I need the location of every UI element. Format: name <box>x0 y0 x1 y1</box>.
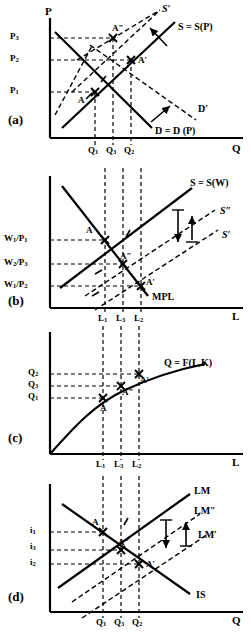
panel-d-ytick-1: i3 <box>30 542 36 552</box>
panel-d-xtick-2: Q2 <box>132 618 142 628</box>
panel-c-point-A2: A″ <box>122 388 133 397</box>
panel-b-point-A2: A″ <box>120 252 131 261</box>
panel-c-point-A1: A′ <box>140 376 149 385</box>
panel-a: P Q P3 P2 P1 Q1 Q3 Q2 S = S(P) S′ D = D … <box>0 0 251 160</box>
tickmark-s1 <box>92 292 99 296</box>
panel-b-curve-label-S1: S′ <box>222 230 230 240</box>
panel-a-curve-label-supply-prime: S′ <box>162 4 170 14</box>
panel-c-ytick-2: Q1 <box>28 392 38 402</box>
arrow-demand-shift <box>151 106 170 122</box>
panel-b-plot <box>0 168 251 323</box>
panel-b-curve-label-MPL: MPL <box>152 292 174 302</box>
panel-a-plot <box>0 0 251 160</box>
curve-IS <box>62 504 190 594</box>
panel-d-curve-label-LM1: LM′ <box>198 530 217 540</box>
panel-d-point-A: A <box>92 518 99 527</box>
panel-a-ytick-0: P3 <box>10 32 19 42</box>
panel-a-ytick-2: P1 <box>10 86 19 96</box>
panel-b-ytick-0: W1/P1 <box>4 234 28 244</box>
panel-b-xtick-0: L1 <box>98 314 107 324</box>
panel-a-curve-label-supply: S = S(P) <box>178 22 213 32</box>
panel-d-xtick-1: Q3 <box>114 618 124 628</box>
panel-b-ytick-2: W1/P2 <box>4 280 28 290</box>
curve-supply-S-prime <box>77 10 160 60</box>
panel-a-xtick-0: Q1 <box>88 146 98 156</box>
panel-c-x-axis-label: L <box>232 457 239 468</box>
panel-d-curve-label-IS: IS <box>196 590 205 600</box>
panel-c-xtick-0: L1 <box>96 460 105 470</box>
panel-b-curve-label-S2: S″ <box>220 206 231 216</box>
panel-d-curve-label-LM: LM <box>194 486 210 496</box>
panel-a-curve-label-demand: D = D (P) <box>155 126 195 136</box>
panel-d-point-A2: A″ <box>118 538 129 547</box>
panel-b-tag: (b) <box>8 294 24 307</box>
panel-d-xtick-0: Q1 <box>96 618 106 628</box>
panel-b: L W1/P1 W2/P3 W1/P2 L1 L3 L2 S = S(W) S″… <box>0 168 251 323</box>
panel-c-xtick-1: L3 <box>114 460 123 470</box>
panel-d-curve-label-LM2: LM″ <box>194 506 216 516</box>
panel-b-curve-label-S: S = S(W) <box>190 178 228 188</box>
panel-c: L Q2 Q3 Q1 L1 L3 L2 Q = F(L,K) A A″ A′ (… <box>0 326 251 474</box>
panel-d-point-A1: A′ <box>146 560 155 569</box>
panel-a-y-axis-label: P <box>45 6 52 17</box>
panel-d-ytick-2: i2 <box>30 558 36 568</box>
panel-b-point-A: A <box>86 226 93 235</box>
panel-b-xtick-2: L2 <box>134 314 143 324</box>
panel-c-xtick-2: L2 <box>132 460 141 470</box>
panel-a-point-A: A <box>78 96 85 105</box>
panel-d-x-axis-label: Q <box>232 615 241 626</box>
tickmark-lm <box>124 518 128 525</box>
panel-a-tag: (a) <box>8 113 23 126</box>
curve-production-function <box>50 364 205 454</box>
panel-b-x-axis-label: L <box>232 311 239 322</box>
panel-b-xtick-1: L3 <box>116 314 125 324</box>
panel-a-point-A2: A″ <box>112 24 123 33</box>
panel-a-xtick-2: Q2 <box>124 146 134 156</box>
panel-c-tag: (c) <box>8 431 22 444</box>
panel-d-ytick-0: i1 <box>30 526 36 536</box>
panel-a-xtick-1: Q3 <box>106 146 116 156</box>
panel-a-curve-label-demand-prime: D′ <box>198 104 208 114</box>
panel-a-ytick-1: P2 <box>10 54 19 64</box>
figure-root: P Q P3 P2 P1 Q1 Q3 Q2 S = S(P) S′ D = D … <box>0 0 251 634</box>
panel-d-tag: (d) <box>8 590 24 603</box>
panel-c-ytick-1: Q3 <box>28 380 38 390</box>
panel-c-ytick-0: Q2 <box>28 368 38 378</box>
panel-a-point-A1: A′ <box>138 56 147 65</box>
panel-c-curve-label: Q = F(L,K) <box>164 358 212 368</box>
panel-d: Q i1 i3 i2 Q1 Q3 Q2 LM LM″ LM′ IS A A″ A… <box>0 476 251 634</box>
panel-c-point-A: A <box>100 404 107 413</box>
panel-b-point-A1: A′ <box>146 278 155 287</box>
panel-d-plot <box>0 476 251 634</box>
panel-b-ytick-1: W2/P3 <box>4 258 28 268</box>
tickmark-mpl <box>95 270 102 274</box>
panel-a-x-axis-label: Q <box>232 143 241 154</box>
